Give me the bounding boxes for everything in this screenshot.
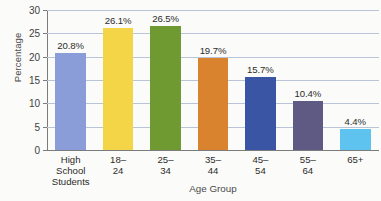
- bar-value-label: 15.7%: [247, 64, 274, 75]
- y-tick-label: 5: [34, 121, 40, 132]
- y-tick-mark: [43, 80, 47, 81]
- gridline: [47, 33, 379, 34]
- x-tick-label: 55–64: [300, 154, 316, 176]
- y-tick-mark: [43, 103, 47, 104]
- bar-value-label: 26.5%: [152, 13, 179, 24]
- bar: 19.7%35–44: [198, 58, 229, 150]
- y-tick-label: 10: [29, 98, 40, 109]
- bar: 10.4%55–64: [293, 101, 324, 150]
- y-tick-label: 15: [29, 75, 40, 86]
- x-axis-title: Age Group: [47, 183, 379, 194]
- bar: 26.1%18–24: [103, 28, 134, 150]
- y-tick-mark: [43, 127, 47, 128]
- y-tick-mark: [43, 33, 47, 34]
- bar-value-label: 4.4%: [345, 116, 366, 127]
- y-axis-title: Percentage: [12, 8, 23, 108]
- bar: 20.8%High School Students: [55, 53, 86, 150]
- bar: 15.7%45–54: [245, 77, 276, 150]
- y-tick-label: 20: [29, 51, 40, 62]
- y-tick-mark: [43, 150, 47, 151]
- plot-area: 051015202530 20.8%High School Students26…: [47, 10, 379, 150]
- x-tick-label: 18–24: [110, 154, 126, 176]
- bar: 4.4%65+: [340, 129, 371, 150]
- x-tick-label: 65+: [347, 154, 363, 165]
- gridline: [47, 10, 379, 11]
- y-tick-mark: [43, 57, 47, 58]
- y-tick-label: 0: [34, 145, 40, 156]
- x-tick-label: 25–34: [158, 154, 174, 176]
- x-tick-label: 45–54: [252, 154, 268, 176]
- bar-value-label: 10.4%: [294, 88, 321, 99]
- y-tick-label: 25: [29, 28, 40, 39]
- bar: 26.5%25–34: [150, 26, 181, 150]
- bar-value-label: 20.8%: [57, 40, 84, 51]
- bar-value-label: 26.1%: [105, 15, 132, 26]
- bar-value-label: 19.7%: [200, 45, 227, 56]
- y-tick-label: 30: [29, 5, 40, 16]
- gridline: [47, 150, 379, 151]
- bar-chart: Percentage 051015202530 20.8%High School…: [0, 0, 381, 201]
- x-tick-label: 35–44: [205, 154, 221, 176]
- y-tick-mark: [43, 10, 47, 11]
